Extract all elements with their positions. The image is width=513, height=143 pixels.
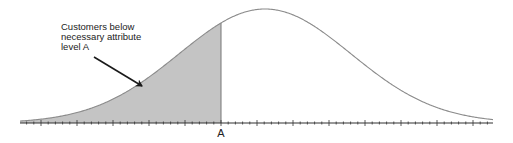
axis-label-a: A [214,127,228,139]
annotation-line-3: level A [61,42,141,52]
annotation-arrow-icon [94,57,142,86]
annotation-text: Customers below necessary attribute leve… [61,22,141,52]
